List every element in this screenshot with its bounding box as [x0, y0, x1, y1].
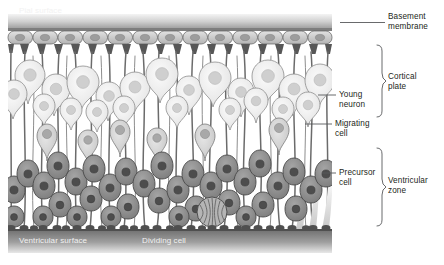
basement-membrane-cell-row	[8, 31, 332, 44]
basement-membrane-label: Basement membrane	[388, 12, 428, 31]
dividing-cell-label: Dividing cell	[142, 236, 186, 246]
cortex-development-diagram	[0, 0, 444, 265]
bracket-cortical-plate	[377, 45, 386, 117]
figure-root: Pial surface Ventricular surface Dividin…	[0, 0, 444, 265]
ventricular-zone-label: Ventricular zone	[388, 176, 428, 195]
pial-surface-band	[8, 14, 332, 31]
precursor-cell-group	[3, 150, 337, 227]
migrating-cell-label: Migrating cell	[335, 119, 370, 138]
radial-glia-endfeet	[8, 44, 332, 54]
bracket-ventricular-zone	[377, 148, 386, 226]
precursor-cell-label: Precursor cell	[339, 168, 375, 187]
ventricular-surface-label: Ventricular surface	[19, 236, 87, 246]
pial-surface-label: Pial surface	[19, 6, 62, 16]
young-neuron-label: Young neuron	[339, 90, 365, 109]
zone-brackets	[377, 45, 386, 226]
dividing-cell	[197, 197, 227, 227]
cortical-plate-label: Cortical plate	[388, 72, 417, 91]
